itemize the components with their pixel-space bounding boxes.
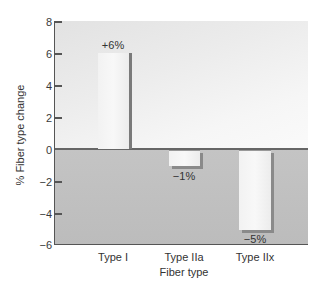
- y-tick-label: −6: [39, 239, 52, 251]
- x-category-label: Type IIx: [236, 251, 275, 263]
- plot-area: [54, 21, 308, 245]
- y-tick: [54, 213, 62, 215]
- y-tick: [54, 21, 62, 23]
- y-tick-label: 8: [46, 16, 52, 28]
- x-axis-title: Fiber type: [160, 266, 209, 278]
- positive-region: [55, 21, 308, 149]
- bar-type-iix: [239, 150, 271, 230]
- y-tick-label: 2: [46, 112, 52, 124]
- y-tick-label: 6: [46, 48, 52, 60]
- x-category-label: Type IIa: [164, 251, 203, 263]
- y-tick: [54, 117, 62, 119]
- bar-type-iia: [169, 150, 200, 166]
- y-tick: [54, 53, 62, 55]
- y-tick-label: −2: [39, 176, 52, 188]
- y-tick-label: 4: [46, 80, 52, 92]
- y-tick: [54, 181, 62, 183]
- data-label-type-iia: −1%: [173, 170, 195, 182]
- bar-type-i: [98, 53, 129, 149]
- y-tick: [54, 85, 62, 87]
- x-category-label: Type I: [98, 251, 128, 263]
- data-label-type-iix: −5%: [244, 233, 266, 245]
- y-axis-title: % Fiber type change: [14, 85, 26, 186]
- data-label-type-i: +6%: [102, 39, 124, 51]
- y-tick-label: 0: [46, 144, 52, 156]
- y-tick-label: −4: [39, 208, 52, 220]
